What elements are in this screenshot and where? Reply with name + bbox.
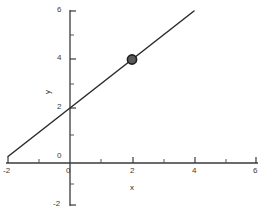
y-tick-label-6: 6 [57,6,61,14]
y-tick-label-4: 4 [57,54,61,62]
y-tick-label-0: 0 [57,152,61,160]
x-tick-label-0: 0 [66,167,70,175]
x-tick-label-6: 6 [253,167,257,175]
y-tick-label--2: -2 [53,200,60,208]
data-line-series-1 [8,11,194,157]
x-axis-title: x [130,184,134,192]
data-point-marker[interactable] [127,55,136,64]
chart-figure: -2 0 2 4 6 6 4 2 0 -2 y x [0,0,263,215]
x-tick-label--2: -2 [3,167,10,175]
x-tick-label-4: 4 [192,167,196,175]
y-axis-title: y [44,90,52,94]
x-axis-major-ticks [8,157,256,163]
y-tick-label-2: 2 [57,103,61,111]
x-tick-label-2: 2 [130,167,134,175]
